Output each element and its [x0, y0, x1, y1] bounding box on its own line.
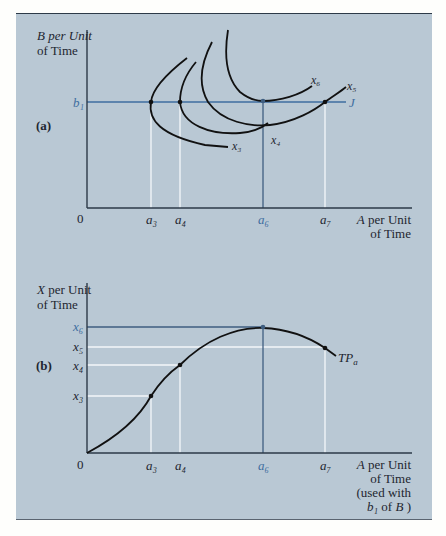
label-tpa: TPa: [338, 350, 358, 367]
tick-a6-a: a₆: [258, 212, 269, 227]
x-label-b-3: (used with: [356, 485, 411, 500]
tick-a3-a: a₃: [146, 212, 157, 227]
isoquant-x4: [180, 62, 268, 133]
point-a7-x5: [323, 346, 328, 351]
point-a3-x3: [149, 394, 154, 399]
label-x3: x₃: [231, 139, 242, 153]
x-label-a-2: of Time: [370, 226, 411, 241]
x-label-b-4: b₁ of B ): [367, 499, 411, 514]
x-label-a-1: A per Unit: [356, 212, 412, 227]
x-label-b-1: A per Unit: [356, 457, 412, 472]
tick-x4: x₄: [72, 358, 84, 373]
label-x5: x₅: [346, 79, 357, 93]
y-label-a-2: of Time: [37, 43, 78, 58]
isoquant-x6: [226, 30, 312, 101]
label-J: J: [349, 95, 356, 110]
tick-a7-a: a₇: [320, 212, 332, 227]
label-x6: x₆: [310, 73, 321, 87]
panel-a: x₃ x₄ x₅ x₆ J B per Unit of Time b₁ (a) …: [36, 28, 412, 241]
tick-a7-b: a₇: [320, 458, 332, 473]
point-a7-b1: [323, 100, 328, 105]
y-label-a-1: B per Unit: [37, 28, 92, 43]
panel-b: TPa X per Unit of Time x₆ x₅ x₄ x₃ (b) 0…: [36, 282, 412, 514]
tick-a6-b: a₆: [258, 458, 269, 473]
tick-x5: x₅: [72, 339, 83, 354]
isoquant-x5: [202, 42, 346, 125]
x-label-b-2: of Time: [370, 471, 411, 486]
y-label-b-1: X per Unit: [36, 282, 92, 297]
tick-b1: b₁: [73, 95, 84, 110]
label-x4: x₄: [270, 133, 281, 147]
tick-a4-a: a₄: [175, 212, 187, 227]
tick-x3: x₃: [72, 388, 83, 403]
tick-x6: x₆: [72, 319, 83, 334]
point-a6-x6: [261, 325, 266, 330]
origin-b: 0: [77, 457, 84, 472]
point-a4-x4: [178, 363, 183, 368]
point-a4-b1: [178, 100, 183, 105]
panel-b-label: (b): [36, 358, 52, 373]
point-a3-b1: [149, 100, 154, 105]
point-a6-b1: [261, 99, 266, 104]
diagram: x₃ x₄ x₅ x₆ J B per Unit of Time b₁ (a) …: [0, 0, 446, 536]
y-label-b-2: of Time: [37, 297, 78, 312]
tick-a3-b: a₃: [146, 458, 157, 473]
tick-a4-b: a₄: [175, 458, 187, 473]
origin-a: 0: [77, 211, 84, 226]
panel-a-label: (a): [36, 118, 51, 133]
